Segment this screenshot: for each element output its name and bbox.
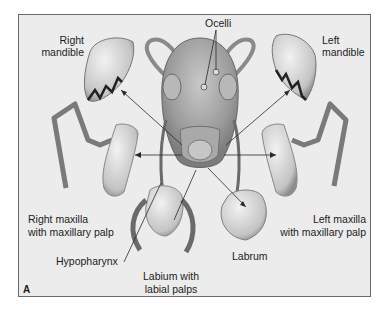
label-left-mandible-line1: Left (322, 34, 340, 46)
label-left-maxilla-line1: Left maxilla (270, 213, 366, 225)
label-labium-line1: Labium with (130, 270, 212, 282)
label-hypopharynx: Hypopharynx (56, 255, 118, 267)
label-right-maxilla-line2: with maxillary palp (28, 226, 114, 238)
label-left-maxilla-line2: with maxillary palp (270, 226, 366, 238)
left-maxillary-palp (292, 104, 346, 186)
compound-eye-right (163, 74, 181, 100)
label-right-mandible-line1: Right (40, 34, 84, 46)
label-right-mandible-line2: mandible (34, 46, 84, 58)
labium (133, 186, 193, 252)
left-maxilla (262, 124, 297, 196)
label-labrum: Labrum (232, 250, 268, 262)
panel-letter: A (23, 284, 30, 295)
ocellus-median (201, 84, 207, 90)
label-left-mandible-line2: mandible (322, 46, 365, 58)
compound-eye-left (219, 74, 237, 100)
label-labium-line2: labial palps (130, 283, 212, 295)
head (162, 38, 238, 168)
labrum (221, 190, 266, 240)
right-maxilla (103, 124, 138, 196)
label-right-maxilla-line1: Right maxilla (28, 213, 88, 225)
label-ocelli: Ocelli (205, 17, 231, 29)
left-mandible (272, 34, 316, 100)
